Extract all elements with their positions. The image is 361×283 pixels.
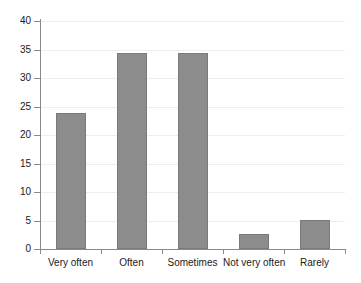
y-axis-tick — [34, 192, 40, 193]
bar-chart: 0510152025303540 Very oftenOftenSometime… — [0, 0, 361, 283]
y-axis-label: 20 — [0, 130, 31, 140]
y-axis-tick — [34, 135, 40, 136]
x-axis-label: Sometimes — [162, 257, 223, 268]
y-axis-label: 10 — [0, 187, 31, 197]
x-axis-label: Rarely — [284, 257, 345, 268]
bar — [239, 234, 269, 249]
y-axis-label: 25 — [0, 102, 31, 112]
y-axis-label: 35 — [0, 45, 31, 55]
x-axis-tick — [345, 249, 346, 254]
y-axis-label: 40 — [0, 16, 31, 26]
bar — [56, 113, 86, 249]
plot-area — [40, 21, 345, 249]
gridline — [40, 21, 345, 22]
y-axis-label: 15 — [0, 159, 31, 169]
y-axis-tick — [34, 221, 40, 222]
y-axis-label: 30 — [0, 73, 31, 83]
bar — [117, 53, 147, 249]
x-axis-tick — [162, 249, 163, 254]
x-axis-tick — [101, 249, 102, 254]
y-axis-label: 5 — [0, 216, 31, 226]
y-axis-tick — [34, 78, 40, 79]
x-axis-label: Very often — [40, 257, 101, 268]
y-axis-tick — [34, 50, 40, 51]
gridline — [40, 50, 345, 51]
y-axis-tick — [34, 107, 40, 108]
y-axis-label: 0 — [0, 244, 31, 254]
x-axis-label: Not very often — [223, 257, 284, 268]
bar — [300, 220, 330, 249]
bar — [178, 53, 208, 249]
y-axis-line — [40, 19, 41, 250]
x-axis-line — [40, 249, 346, 250]
x-axis-tick — [223, 249, 224, 254]
x-axis-tick — [40, 249, 41, 254]
x-axis-tick — [284, 249, 285, 254]
y-axis-tick — [34, 164, 40, 165]
y-axis-tick — [34, 21, 40, 22]
x-axis-label: Often — [101, 257, 162, 268]
